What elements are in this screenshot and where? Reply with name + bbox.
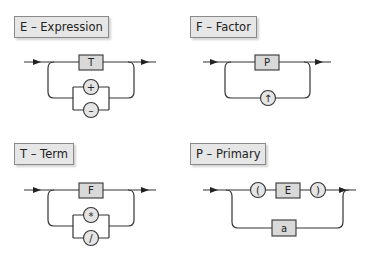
nonterminal-t-label: T — [87, 57, 95, 68]
terminal-minus-label: – — [89, 105, 94, 116]
terminal-plus-label: + — [87, 82, 95, 93]
exit-arrow-icon — [141, 59, 149, 65]
entry-arrow-icon — [33, 59, 41, 65]
entry-arrow-icon — [210, 187, 218, 193]
entry-arrow-icon — [33, 187, 41, 193]
terminal-open-paren-label: ( — [256, 185, 260, 196]
nonterminal-f-label: F — [88, 185, 94, 196]
nonterminal-e-label: E — [285, 185, 291, 196]
terminal-multiply-label: * — [89, 211, 94, 222]
syntax-diagrams-canvas: T + – P ↑ F * / — [0, 0, 365, 261]
factor-diagram: P ↑ — [203, 55, 331, 106]
exit-arrow-icon — [315, 59, 323, 65]
term-diagram: F * / — [24, 183, 156, 246]
terminal-close-paren-label: ) — [316, 185, 320, 196]
terminal-exponent-label: ↑ — [264, 93, 272, 104]
expression-diagram: T + – — [24, 55, 156, 118]
entry-arrow-icon — [210, 59, 218, 65]
nonterminal-p-label: P — [264, 57, 270, 68]
nonterminal-a-label: a — [281, 223, 287, 234]
exit-arrow-icon — [141, 187, 149, 193]
primary-diagram: ( E ) a — [203, 183, 356, 237]
